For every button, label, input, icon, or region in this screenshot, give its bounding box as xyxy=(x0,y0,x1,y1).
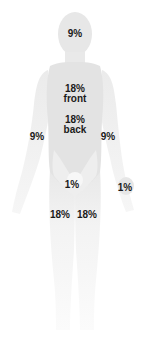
groin-percent-label: 1% xyxy=(65,180,79,190)
right-leg-percent-label: 18% xyxy=(77,210,97,220)
body-silhouette xyxy=(0,0,147,342)
right-arm-percent-label: 9% xyxy=(101,132,115,142)
left-leg-percent-label: 18% xyxy=(50,210,70,220)
rule-of-nines-diagram: 9% 18% front 18% back 9% 9% 1% 1% 18% 18… xyxy=(0,0,147,342)
left-leg-region xyxy=(49,170,75,330)
head-percent-label: 9% xyxy=(68,29,82,39)
torso-front-percent-label: 18% front xyxy=(64,84,87,104)
torso-back-percent-label: 18% back xyxy=(64,115,87,135)
palm-percent-label: 1% xyxy=(118,183,132,193)
left-arm-region xyxy=(12,70,50,214)
left-arm-percent-label: 9% xyxy=(30,132,44,142)
right-leg-region xyxy=(75,170,101,330)
